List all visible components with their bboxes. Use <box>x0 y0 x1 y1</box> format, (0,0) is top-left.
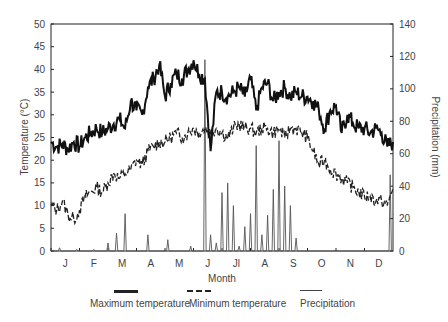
x-axis-title: Month <box>208 273 236 284</box>
month-tick-label: N <box>347 258 354 269</box>
month-tick-label: M <box>175 258 183 269</box>
right-axis-title: Precipitation (mm) <box>430 96 441 177</box>
left-tick-label: 15 <box>34 177 46 188</box>
right-tick-label: 0 <box>399 246 405 257</box>
legend-label-min: Minimum temperature <box>189 298 286 309</box>
month-tick-label: A <box>261 258 268 269</box>
month-tick-label: M <box>118 258 126 269</box>
month-tick-label: O <box>318 258 326 269</box>
legend-swatch-min <box>187 290 211 292</box>
right-tick-label: 140 <box>399 19 416 30</box>
maximum-temperature-series <box>51 60 393 155</box>
left-tick-label: 20 <box>34 155 46 166</box>
climate-chart: 05101520253035404550 020406080100120140 … <box>0 0 448 290</box>
plot-frame <box>51 24 393 251</box>
month-tick-label: S <box>290 258 297 269</box>
left-tick-label: 50 <box>34 19 46 30</box>
month-tick-label: J <box>63 258 68 269</box>
right-tick-label: 40 <box>399 181 411 192</box>
left-tick-label: 40 <box>34 64 46 75</box>
left-tick-label: 10 <box>34 200 46 211</box>
left-tick-label: 5 <box>39 223 45 234</box>
left-tick-label: 0 <box>39 246 45 257</box>
left-tick-label: 35 <box>34 87 46 98</box>
month-tick-label: Jl <box>233 258 240 269</box>
left-axis-title: Temperature (°C) <box>19 99 30 176</box>
legend-item-min: Minimum temperature <box>187 288 317 322</box>
right-tick-label: 80 <box>399 116 411 127</box>
month-tick-label: F <box>91 258 97 269</box>
right-y-axis: 020406080100120140 <box>390 19 416 257</box>
month-tick-label: A <box>147 258 154 269</box>
month-tick-label: D <box>375 258 382 269</box>
legend-swatch-max <box>114 290 138 293</box>
right-tick-label: 100 <box>399 83 416 94</box>
legend-swatch-precip <box>300 290 322 291</box>
right-tick-label: 120 <box>399 51 416 62</box>
right-tick-label: 20 <box>399 213 411 224</box>
right-tick-label: 60 <box>399 148 411 159</box>
legend: Maximum temperature Minimum temperature … <box>0 288 448 322</box>
left-tick-label: 25 <box>34 132 46 143</box>
left-tick-label: 30 <box>34 109 46 120</box>
legend-item-precip: Precipitation <box>300 288 390 322</box>
left-tick-label: 45 <box>34 41 46 52</box>
month-tick-label: J <box>205 258 210 269</box>
legend-label-max: Maximum temperature <box>90 298 190 309</box>
legend-label-precip: Precipitation <box>300 298 355 309</box>
